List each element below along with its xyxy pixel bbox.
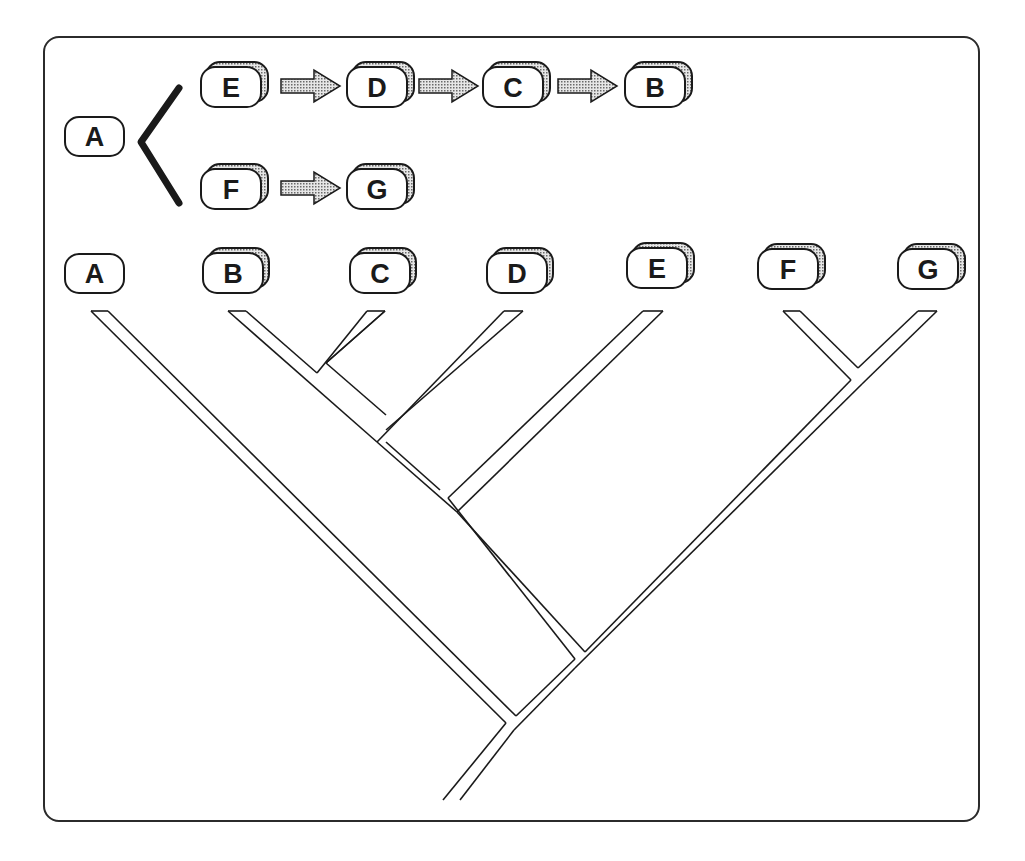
arrow-d-to-c: [419, 70, 478, 102]
diagram-canvas: A E D C B F G: [0, 0, 1025, 861]
node-label: E: [222, 73, 240, 103]
lineage-node-d: D: [347, 62, 414, 107]
node-label: G: [366, 175, 387, 205]
node-label: D: [507, 259, 527, 289]
lineage-node-g: G: [347, 164, 414, 209]
lineage-node-a: A: [65, 117, 124, 156]
lineage-node-e: E: [201, 62, 268, 107]
tree-leaf-d: D: [487, 248, 553, 293]
node-label: G: [917, 255, 938, 285]
tree-leaf-a: A: [65, 254, 124, 293]
lineage-node-c: C: [483, 62, 550, 107]
branch-b: [228, 311, 377, 442]
node-label: E: [648, 254, 666, 284]
branch-f: [783, 311, 851, 380]
node-label: D: [367, 73, 387, 103]
cladogram-branches: [91, 311, 937, 800]
tree-leaf-c: C: [350, 248, 416, 293]
tree-leaf-e: E: [627, 243, 694, 288]
arrow-c-to-b: [558, 70, 617, 102]
node-label: B: [223, 259, 243, 289]
node-label: A: [85, 122, 105, 152]
root-stem: [443, 723, 506, 800]
node-label: F: [223, 175, 240, 205]
tree-leaf-g: G: [898, 244, 965, 289]
arrow-e-to-d: [281, 70, 340, 102]
lineage-node-f: F: [201, 164, 268, 209]
lineage-node-b: B: [625, 62, 692, 107]
node-label: C: [503, 73, 523, 103]
branch-d: [377, 311, 504, 442]
branching-bracket: [141, 88, 179, 203]
node-label: B: [645, 73, 665, 103]
tree-leaf-f: F: [758, 244, 825, 289]
node-label: C: [370, 259, 390, 289]
tree-leaf-b: B: [203, 248, 269, 293]
node-label: F: [780, 255, 797, 285]
node-label: A: [85, 259, 105, 289]
arrow-f-to-g: [281, 172, 340, 204]
